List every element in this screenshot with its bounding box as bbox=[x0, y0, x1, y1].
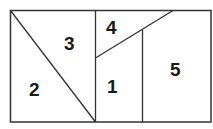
region-label-5: 5 bbox=[170, 60, 181, 79]
diagonal-line-2-3 bbox=[11, 11, 96, 123]
region-label-3: 3 bbox=[64, 34, 75, 53]
region-label-4: 4 bbox=[106, 18, 117, 37]
region-label-1: 1 bbox=[107, 77, 118, 96]
region-label-2: 2 bbox=[29, 80, 40, 99]
